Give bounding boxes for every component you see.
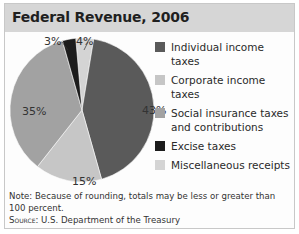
legend-swatch <box>155 160 165 170</box>
legend-swatch <box>155 141 165 151</box>
slice-label: 15% <box>72 175 96 188</box>
legend-item-individual: Individual income taxes <box>153 40 293 68</box>
source-text: U.S. Department of the Treasury <box>38 215 180 225</box>
legend-swatch <box>155 42 165 52</box>
slice-label: 35% <box>22 105 46 118</box>
rounding-note: Note: Because of rounding, totals may be… <box>9 190 289 214</box>
source-label: Source: <box>9 215 38 225</box>
legend-item-misc: Miscellaneous receipts <box>153 158 293 172</box>
legend-swatch <box>155 108 165 118</box>
legend-item-corporate: Corporate income taxes <box>153 73 293 101</box>
legend: Individual income taxes Corporate income… <box>153 40 293 177</box>
chart-notes: Note: Because of rounding, totals may be… <box>9 190 289 226</box>
legend-item-social-insurance: Social insurance taxes and contributions <box>153 106 293 134</box>
legend-item-excise: Excise taxes <box>153 139 293 153</box>
legend-swatch <box>155 75 165 85</box>
slice-label: 4% <box>76 35 93 48</box>
source-line: Source: U.S. Department of the Treasury <box>9 214 289 226</box>
slice-label: 3% <box>44 35 61 48</box>
